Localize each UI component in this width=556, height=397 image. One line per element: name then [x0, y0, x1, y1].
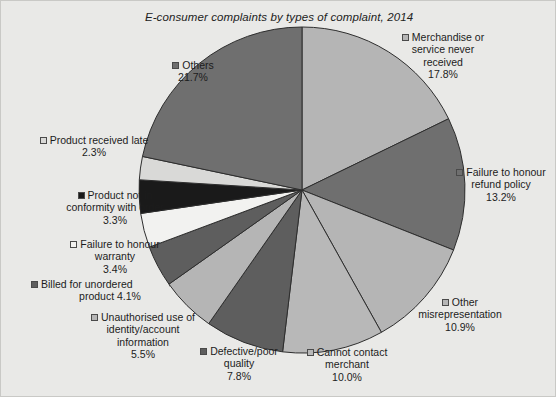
pie-label-line2: product 4.1%: [31, 290, 189, 302]
pie-label-line1: Merchandise or: [412, 31, 484, 43]
pie-label-product-received-late: Product received late 2.3%: [7, 134, 181, 159]
pie-label-percent: 3.4%: [41, 263, 189, 275]
pie-label-unauthorised-use-identity: Unauthorised use of identity/account inf…: [73, 311, 213, 361]
pie-label-line2: merchant: [325, 358, 369, 370]
pie-label-line1: Billed for unordered: [41, 278, 133, 290]
pie-label-line2: misrepresentation: [418, 308, 501, 320]
legend-swatch-product-received-late: [40, 137, 47, 144]
pie-label-line1: Other: [452, 296, 478, 308]
pie-label-percent: 17.8%: [383, 68, 503, 80]
pie-label-product-not-in-conformity: Product not in conformity with order 3.3…: [35, 189, 195, 226]
pie-label-percent: 2.3%: [7, 146, 181, 158]
pie-label-line1: Product received late: [50, 134, 149, 146]
pie-label-other-misrepresentation: Other misrepresentation 10.9%: [397, 296, 523, 333]
pie-label-line2: refund policy: [471, 178, 531, 190]
pie-label-line1: Defective/poor: [210, 345, 278, 357]
pie-label-cannot-contact-merchant: Cannot contact merchant 10.0%: [283, 346, 411, 383]
legend-swatch-other-misrepresentation: [442, 299, 449, 306]
legend-swatch-billed-unordered-product: [31, 281, 38, 288]
pie-label-percent: 10.9%: [397, 321, 523, 333]
pie-label-percent: 10.0%: [283, 371, 411, 383]
pie-label-line2: quality: [224, 357, 254, 369]
pie-label-percent: 13.2%: [445, 191, 556, 203]
pie-label-line1: Product not in: [88, 189, 153, 201]
pie-label-failure-honour-warranty: Failure to honour warranty 3.4%: [41, 238, 189, 275]
pie-label-merchandise-never-received: Merchandise or service never received 17…: [383, 31, 503, 81]
pie-label-failure-honour-refund-policy: Failure to honour refund policy 13.2%: [445, 166, 556, 203]
legend-swatch-merchandise-never-received: [402, 34, 409, 41]
pie-label-line2: identity/account: [107, 323, 180, 335]
pie-label-line2: warranty: [95, 250, 135, 262]
pie-label-percent: 5.5%: [73, 348, 213, 360]
pie-label-line1: Failure to honour: [466, 166, 545, 178]
chart-figure: E-consumer complaints by types of compla…: [0, 0, 556, 397]
pie-label-line2: service never: [412, 43, 474, 55]
pie-label-line1: Others: [182, 59, 214, 71]
pie-label-billed-unordered-product: Billed for unordered product 4.1%: [31, 278, 189, 303]
legend-swatch-product-not-in-conformity: [78, 192, 85, 199]
pie-label-percent: 3.3%: [35, 214, 195, 226]
legend-swatch-cannot-contact-merchant: [307, 349, 314, 356]
pie-label-line2: conformity with order: [66, 201, 163, 213]
pie-label-line1: Unauthorised use of: [101, 311, 195, 323]
legend-swatch-failure-honour-warranty: [70, 241, 77, 248]
chart-title: E-consumer complaints by types of compla…: [1, 11, 556, 23]
legend-swatch-failure-honour-refund-policy: [456, 169, 463, 176]
pie-label-line3: received: [423, 56, 463, 68]
pie-label-percent: 7.8%: [187, 370, 291, 382]
pie-label-percent: 21.7%: [133, 71, 253, 83]
pie-label-others: Others 21.7%: [133, 59, 253, 84]
legend-swatch-unauthorised-use-identity: [91, 314, 98, 321]
pie-label-line1: Cannot contact: [317, 346, 388, 358]
pie-label-line3: information: [117, 336, 169, 348]
legend-swatch-others: [172, 62, 179, 69]
pie-label-line1: Failure to honour: [80, 238, 159, 250]
